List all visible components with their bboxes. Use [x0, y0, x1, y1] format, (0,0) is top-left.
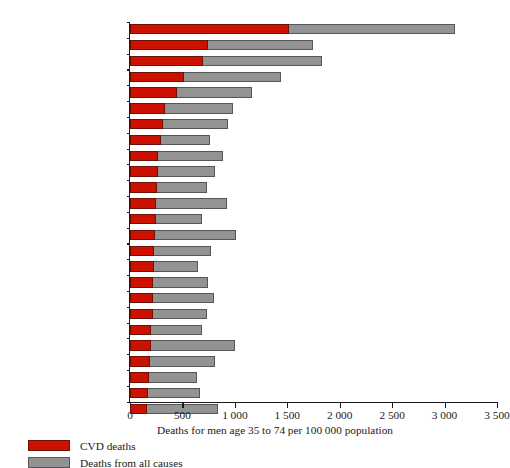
bar-cvd-deaths: [130, 182, 157, 192]
legend-item: CVD deaths: [28, 438, 498, 453]
bar-cvd-deaths: [130, 151, 158, 161]
category-tick: [127, 164, 131, 165]
category-tick: [127, 307, 131, 308]
category-tick: [127, 180, 131, 181]
x-axis-tick: [497, 403, 498, 408]
category-tick: [127, 117, 131, 118]
x-axis-tick: [235, 403, 236, 408]
x-axis-tick: [340, 403, 341, 408]
category-tick: [127, 370, 131, 371]
category-tick: [127, 212, 131, 213]
category-tick: [127, 22, 131, 23]
bar-chart: Russian FederationRomaniaHungaryPolandCz…: [0, 0, 510, 468]
category-tick: [127, 228, 131, 229]
x-axis-tick-label: 2 500: [379, 409, 404, 421]
legend-label: Deaths from all causes: [80, 457, 183, 468]
legend-swatch-total: [28, 457, 70, 468]
plot-area: Russian FederationRomaniaHungaryPolandCz…: [130, 22, 497, 402]
x-axis-tick: [392, 403, 393, 408]
category-tick: [127, 69, 131, 70]
bar-cvd-deaths: [130, 72, 184, 82]
legend-item: Deaths from all causes: [28, 455, 498, 468]
bar-cvd-deaths: [130, 246, 154, 256]
bar-cvd-deaths: [130, 230, 155, 240]
x-axis-tick-label: 3 000: [432, 409, 457, 421]
category-tick: [127, 275, 131, 276]
bar-cvd-deaths: [130, 103, 165, 113]
x-axis-title: Deaths for men age 35 to 74 per 100 000 …: [0, 424, 510, 436]
category-tick: [127, 85, 131, 86]
x-axis-tick-label: 2 000: [327, 409, 352, 421]
bar-cvd-deaths: [130, 87, 177, 97]
x-axis-tick: [287, 403, 288, 408]
bar-cvd-deaths: [130, 388, 148, 398]
bar-cvd-deaths: [130, 24, 289, 34]
legend-swatch-cvd: [28, 440, 70, 451]
bar-cvd-deaths: [130, 309, 153, 319]
bar-cvd-deaths: [130, 325, 151, 335]
category-tick: [127, 54, 131, 55]
bar-cvd-deaths: [130, 404, 147, 414]
bar-cvd-deaths: [130, 166, 158, 176]
x-axis-tick-label: 1 500: [275, 409, 300, 421]
bar-cvd-deaths: [130, 277, 153, 287]
x-axis-tick-label: 1 000: [222, 409, 247, 421]
x-axis-tick: [445, 403, 446, 408]
bar-cvd-deaths: [130, 261, 154, 271]
category-tick: [127, 243, 131, 244]
x-axis-tick-label: 500: [174, 409, 191, 421]
bar-cvd-deaths: [130, 372, 149, 382]
category-tick: [127, 354, 131, 355]
category-tick: [127, 386, 131, 387]
bar-cvd-deaths: [130, 214, 156, 224]
chart-legend: CVD deathsDeaths from all causes: [28, 438, 498, 468]
category-tick: [127, 338, 131, 339]
bar-cvd-deaths: [130, 356, 150, 366]
bar-cvd-deaths: [130, 340, 151, 350]
bar-cvd-deaths: [130, 119, 163, 129]
category-tick: [127, 38, 131, 39]
category-tick: [127, 323, 131, 324]
x-axis-tick: [182, 403, 183, 408]
bar-cvd-deaths: [130, 198, 156, 208]
legend-label: CVD deaths: [80, 440, 136, 452]
bar-cvd-deaths: [130, 40, 208, 50]
category-tick: [127, 196, 131, 197]
category-tick: [127, 149, 131, 150]
category-tick: [127, 133, 131, 134]
category-tick: [127, 291, 131, 292]
bar-cvd-deaths: [130, 293, 153, 303]
bar-cvd-deaths: [130, 135, 161, 145]
x-axis-tick-label: 3 500: [484, 409, 509, 421]
category-tick: [127, 101, 131, 102]
bar-cvd-deaths: [130, 56, 203, 66]
category-tick: [127, 259, 131, 260]
